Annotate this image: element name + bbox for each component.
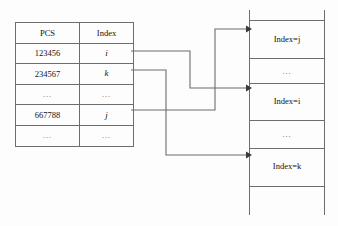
connector-j-to-index-j <box>131 26 252 111</box>
connector-i-to-index-i <box>131 51 252 92</box>
column-header-pcs: PCS <box>16 23 80 44</box>
index-value: k <box>105 68 109 78</box>
index-value: i <box>105 48 108 58</box>
index-block-divider <box>249 20 325 21</box>
index-cell-label: Index=k <box>249 162 325 171</box>
index-block-divider <box>249 148 325 149</box>
ellipsis-text: ... <box>43 131 52 140</box>
table-row: ... ... <box>16 125 134 146</box>
diagram-canvas: PCS Index 123456 i 234567 k ... ... 6677… <box>0 0 338 226</box>
table-row: 667788 j <box>16 105 134 126</box>
cell-pcs: 123456 <box>16 43 80 64</box>
index-block-divider <box>249 58 325 59</box>
index-block-divider <box>249 120 325 121</box>
index-cell-label: Index=i <box>249 97 325 106</box>
cell-index: ... <box>80 125 134 146</box>
index-cell-label: Index=j <box>249 35 325 44</box>
index-block-divider <box>249 83 325 84</box>
index-cell-ellipsis: ... <box>249 131 325 139</box>
index-cell-ellipsis: ... <box>249 68 325 76</box>
table-header-row: PCS Index <box>16 23 134 44</box>
column-header-index: Index <box>80 23 134 44</box>
ellipsis-text: ... <box>102 90 111 99</box>
cell-index: k <box>80 64 134 85</box>
cell-pcs: ... <box>16 125 80 146</box>
cell-pcs: 234567 <box>16 64 80 85</box>
cell-pcs: ... <box>16 84 80 105</box>
index-value: j <box>105 110 108 120</box>
cell-index: j <box>80 105 134 126</box>
cell-pcs: 667788 <box>16 105 80 126</box>
ellipsis-text: ... <box>102 131 111 140</box>
ellipsis-text: ... <box>43 90 52 99</box>
index-block-divider <box>249 186 325 187</box>
connector-k-to-index-k <box>131 70 252 159</box>
table-row: ... ... <box>16 84 134 105</box>
pcs-index-table: PCS Index 123456 i 234567 k ... ... 6677… <box>15 22 134 147</box>
cell-index: i <box>80 43 134 64</box>
table-row: 234567 k <box>16 64 134 85</box>
table-row: 123456 i <box>16 43 134 64</box>
cell-index: ... <box>80 84 134 105</box>
index-records-block: Index=j ... Index=i ... Index=k <box>249 10 325 215</box>
